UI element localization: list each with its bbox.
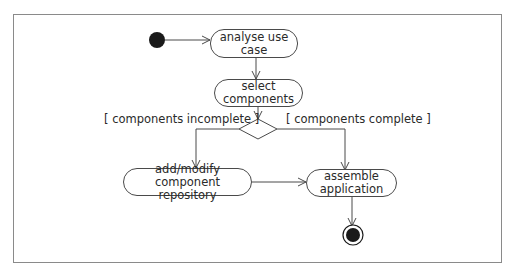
edge-decision-assemble xyxy=(277,129,349,170)
edge-analyse-select xyxy=(252,58,260,79)
guard-components-complete: [ components complete ] xyxy=(286,112,431,126)
action-label: add/modify component xyxy=(124,163,251,189)
action-label: analyse use xyxy=(220,31,288,44)
edge-start-analyse xyxy=(165,36,210,44)
action-label: components xyxy=(223,93,294,106)
action-label: case xyxy=(220,44,288,57)
edge-addmodify-assemble xyxy=(252,178,306,186)
action-add-modify-component-repository: add/modify componentrepository xyxy=(123,168,252,196)
edge-assemble-end xyxy=(348,196,356,226)
action-label: repository xyxy=(124,189,251,202)
action-select-components: selectcomponents xyxy=(214,79,303,107)
action-label: application xyxy=(320,183,383,196)
action-analyse-use-case: analyse usecase xyxy=(210,29,298,58)
initial-node-icon xyxy=(149,32,165,48)
action-assemble-application: assembleapplication xyxy=(306,169,397,197)
guard-components-incomplete: [ components incomplete ] xyxy=(104,112,259,126)
final-node-icon xyxy=(343,225,363,245)
